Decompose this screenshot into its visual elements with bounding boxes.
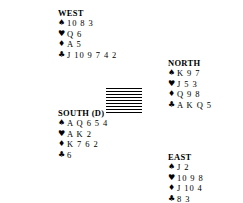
spade-icon: ♠ [168, 68, 177, 79]
hand-west: WEST ♠ 10 8 3 ♥ Q 6 ♦ A 5 ♣ J 10 9 7 4 2 [58, 8, 136, 60]
hand-label-west: WEST [58, 8, 136, 18]
suit-cards-north-hearts: J 5 3 [177, 79, 198, 90]
suit-row-west-diamonds: ♦ A 5 [58, 39, 136, 50]
suit-row-west-spades: ♠ 10 8 3 [58, 18, 136, 29]
hand-north: NORTH ♠ K 9 7 ♥ J 5 3 ♦ Q 9 8 ♣ A K Q 5 [168, 58, 243, 110]
suit-row-north-diamonds: ♦ Q 9 8 [168, 89, 243, 100]
heart-icon: ♥ [168, 173, 177, 184]
suit-cards-north-diamonds: Q 9 8 [177, 89, 200, 100]
diamond-icon: ♦ [58, 139, 67, 150]
diamond-icon: ♦ [168, 89, 177, 100]
suit-row-south-diamonds: ♦ K 7 6 2 [58, 139, 136, 150]
suit-row-north-clubs: ♣ A K Q 5 [168, 100, 243, 111]
center-table-hatch [106, 88, 142, 114]
suit-cards-south-clubs: 6 [67, 150, 72, 161]
suit-cards-east-hearts: 10 9 8 [177, 173, 204, 184]
hand-label-east: EAST [168, 152, 243, 162]
heart-icon: ♥ [58, 29, 67, 40]
suit-row-east-clubs: ♣ 8 3 [168, 194, 243, 203]
spade-icon: ♠ [168, 162, 177, 173]
suit-cards-north-clubs: A K Q 5 [177, 100, 212, 111]
suit-cards-north-spades: K 9 7 [177, 68, 200, 79]
suit-row-south-spades: ♠ A Q 6 5 4 [58, 118, 136, 129]
suit-cards-east-spades: J 2 [177, 162, 189, 173]
club-icon: ♣ [58, 150, 67, 161]
suit-row-east-diamonds: ♦ J 10 4 [168, 183, 243, 194]
club-icon: ♣ [58, 50, 67, 61]
spade-icon: ♠ [58, 118, 67, 129]
hand-label-north: NORTH [168, 58, 243, 68]
suit-cards-west-hearts: Q 6 [67, 29, 82, 40]
suit-row-west-clubs: ♣ J 10 9 7 4 2 [58, 50, 136, 61]
bridge-diagram-canvas: WEST ♠ 10 8 3 ♥ Q 6 ♦ A 5 ♣ J 10 9 7 4 2… [0, 0, 243, 202]
suit-cards-south-diamonds: K 7 6 2 [67, 139, 99, 150]
diamond-icon: ♦ [168, 183, 177, 194]
club-icon: ♣ [168, 194, 177, 203]
heart-icon: ♥ [168, 79, 177, 90]
suit-row-east-spades: ♠ J 2 [168, 162, 243, 173]
diamond-icon: ♦ [58, 39, 67, 50]
heart-icon: ♥ [58, 129, 67, 140]
suit-cards-west-spades: 10 8 3 [67, 18, 94, 29]
suit-row-south-clubs: ♣ 6 [58, 150, 136, 161]
suit-row-south-hearts: ♥ A K 2 [58, 129, 136, 140]
hand-south: SOUTH (D) ♠ A Q 6 5 4 ♥ A K 2 ♦ K 7 6 2 … [58, 108, 136, 160]
suit-cards-east-clubs: 8 3 [177, 194, 190, 203]
suit-row-north-hearts: ♥ J 5 3 [168, 79, 243, 90]
suit-row-north-spades: ♠ K 9 7 [168, 68, 243, 79]
suit-cards-east-diamonds: J 10 4 [177, 183, 203, 194]
suit-row-west-hearts: ♥ Q 6 [58, 29, 136, 40]
club-icon: ♣ [168, 100, 177, 111]
spade-icon: ♠ [58, 18, 67, 29]
suit-cards-west-diamonds: A 5 [67, 39, 82, 50]
suit-row-east-hearts: ♥ 10 9 8 [168, 173, 243, 184]
suit-cards-south-spades: A Q 6 5 4 [67, 118, 108, 129]
suit-cards-south-hearts: A K 2 [67, 129, 92, 140]
suit-cards-west-clubs: J 10 9 7 4 2 [67, 50, 117, 61]
hand-east: EAST ♠ J 2 ♥ 10 9 8 ♦ J 10 4 ♣ 8 3 [168, 152, 243, 202]
